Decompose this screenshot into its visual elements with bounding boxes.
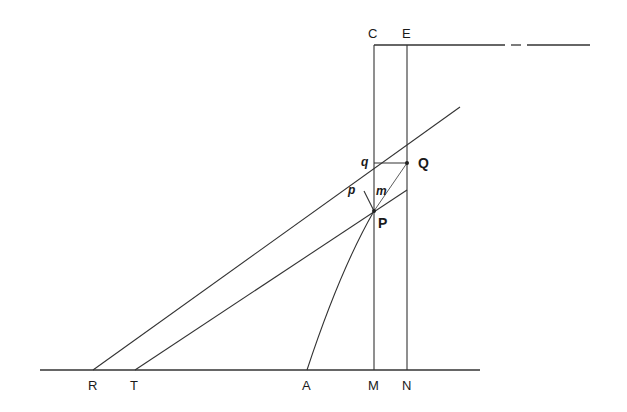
curve-ap: [307, 211, 374, 370]
label-p-lower: p: [347, 183, 355, 197]
label-a: A: [302, 378, 311, 393]
label-q-lower: q: [361, 155, 369, 169]
point-q-dot: [405, 161, 409, 165]
label-c: C: [368, 26, 377, 41]
label-p-upper: P: [378, 215, 387, 231]
point-p-dot: [372, 209, 376, 213]
label-m: M: [368, 378, 379, 393]
label-r: R: [88, 378, 97, 393]
tangent-tp: [135, 190, 407, 370]
label-e: E: [402, 26, 411, 41]
tangent-rq: [93, 107, 460, 370]
label-n: N: [402, 378, 411, 393]
label-q-upper: Q: [418, 155, 429, 171]
geometric-diagram: C E R T A M N Q P q p m: [0, 0, 627, 412]
segment-pp: [364, 191, 374, 211]
label-m-lower: m: [376, 184, 387, 198]
label-t: T: [130, 378, 138, 393]
